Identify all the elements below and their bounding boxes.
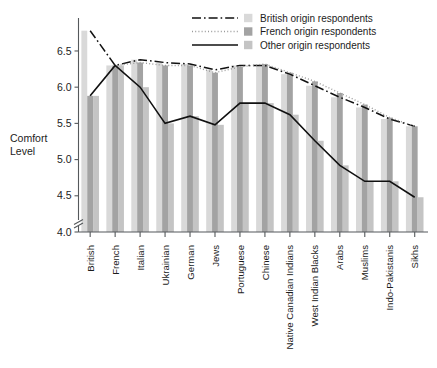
x-tick-label: Sikhs [409, 245, 420, 269]
x-axis: BritishFrenchItalianUkrainianGermanJewsP… [79, 232, 429, 350]
bar-group [306, 81, 324, 232]
bar [243, 103, 249, 232]
bar-group [281, 73, 299, 232]
bar [187, 65, 193, 232]
y-tick-label: 5.0 [57, 153, 72, 165]
legend-swatch [244, 27, 252, 35]
y-axis-title-line: Comfort [10, 132, 47, 144]
bar [118, 65, 124, 232]
bar [93, 96, 99, 232]
bar [131, 60, 137, 232]
bar-group [156, 63, 174, 232]
legend-label: Other origin respondents [260, 40, 370, 51]
bar [181, 64, 187, 232]
bar [362, 105, 368, 232]
bar [106, 65, 112, 232]
bar-group [381, 118, 399, 232]
bar [162, 65, 168, 232]
x-tick-label: Arabs [334, 245, 345, 270]
chart-canvas: 4.04.55.05.56.06.5ComfortLevelBritishFre… [0, 0, 437, 368]
bar [231, 65, 237, 232]
x-tick-label: Portuguese [235, 245, 246, 294]
x-tick-label: Italian [135, 245, 146, 271]
bar-group [131, 60, 149, 232]
x-tick-label: Chinese [260, 245, 271, 280]
bar [281, 74, 287, 232]
bar [306, 86, 312, 232]
legend-label: French origin respondents [260, 26, 376, 37]
bar [218, 125, 224, 232]
bar [412, 126, 418, 232]
bar [256, 65, 262, 232]
bar-group [331, 93, 349, 232]
y-tick-label: 4.0 [57, 226, 72, 238]
bar-group [356, 105, 374, 232]
bar [331, 97, 337, 232]
bar [293, 115, 299, 232]
bar [387, 118, 393, 232]
y-tick-label: 6.0 [57, 81, 72, 93]
legend-swatch [244, 41, 252, 49]
bar [356, 107, 362, 232]
bar [318, 141, 324, 232]
bar [262, 64, 268, 232]
y-tick-label: 6.5 [57, 45, 72, 57]
bar [287, 73, 293, 232]
bar [381, 119, 387, 232]
bar [156, 63, 162, 232]
legend-label: British origin respondents [260, 13, 373, 24]
bar [212, 73, 218, 232]
bar [268, 103, 274, 232]
y-axis-title: ComfortLevel [10, 132, 47, 157]
bar [143, 87, 149, 232]
bar [237, 67, 243, 232]
legend-item: British origin respondents [192, 13, 373, 24]
x-tick-label: German [185, 245, 196, 280]
y-tick-label: 5.5 [57, 117, 72, 129]
x-tick-label: French [110, 245, 121, 275]
x-tick-label: Muslims [359, 245, 370, 280]
bar [206, 70, 212, 232]
x-tick-label: Ukrainian [160, 245, 171, 286]
y-axis: 4.04.55.05.56.06.5 [57, 18, 83, 238]
legend-item: Other origin respondents [192, 40, 370, 51]
bar-group [181, 64, 199, 232]
x-tick-label: Indo-Pakistanis [384, 245, 395, 311]
legend: British origin respondentsFrench origin … [192, 13, 376, 51]
bar [406, 126, 412, 232]
bar [168, 123, 174, 232]
bar [368, 181, 374, 232]
y-tick-label: 4.5 [57, 189, 72, 201]
x-tick-label: Jews [210, 245, 221, 267]
bar [312, 81, 318, 232]
bar-group [406, 126, 424, 232]
legend-swatch [244, 14, 252, 22]
bar [87, 96, 93, 232]
bar [193, 116, 199, 232]
bar-group [81, 31, 99, 232]
bar [112, 65, 118, 232]
y-axis-title-line: Level [10, 145, 35, 157]
bar [393, 181, 399, 232]
bar-group [106, 65, 124, 232]
bar-group [231, 65, 249, 232]
comfort-level-chart: 4.04.55.05.56.06.5ComfortLevelBritishFre… [0, 0, 437, 368]
bar [343, 165, 349, 232]
bar [81, 31, 87, 232]
bar-group [256, 64, 274, 232]
bar [418, 197, 424, 232]
x-tick-label: West Indian Blacks [309, 245, 320, 327]
legend-item: French origin respondents [192, 26, 376, 37]
bars-layer [81, 31, 423, 232]
bar-group [206, 70, 224, 232]
x-tick-label: Native Canadian Indians [284, 245, 295, 350]
x-tick-label: British [85, 245, 96, 272]
